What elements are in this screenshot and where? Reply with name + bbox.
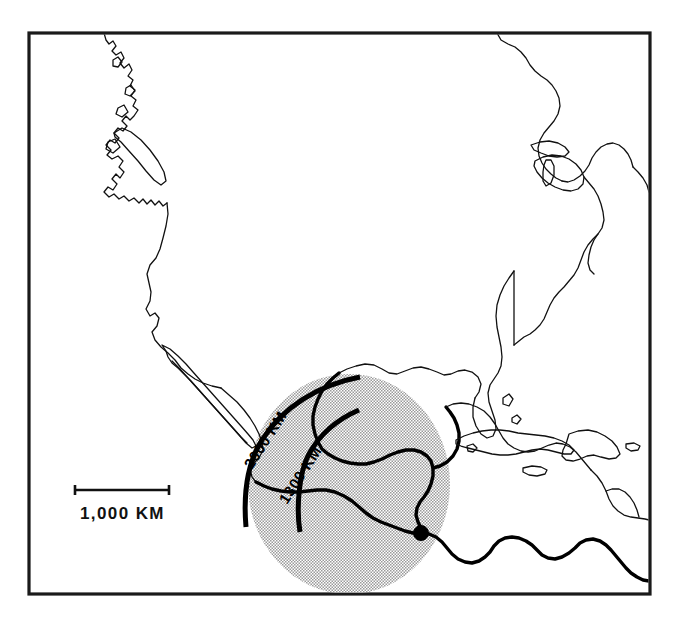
scale-bar: 1,000 KM [74,485,170,523]
source-site-dot [414,526,429,541]
map-canvas: 2000 KM 1300 KM 1,000 KM [0,0,674,619]
scale-bar-label: 1,000 KM [80,504,165,523]
distribution-zone-shading [248,374,450,594]
map-figure: 2000 KM 1300 KM 1,000 KM [0,0,674,619]
